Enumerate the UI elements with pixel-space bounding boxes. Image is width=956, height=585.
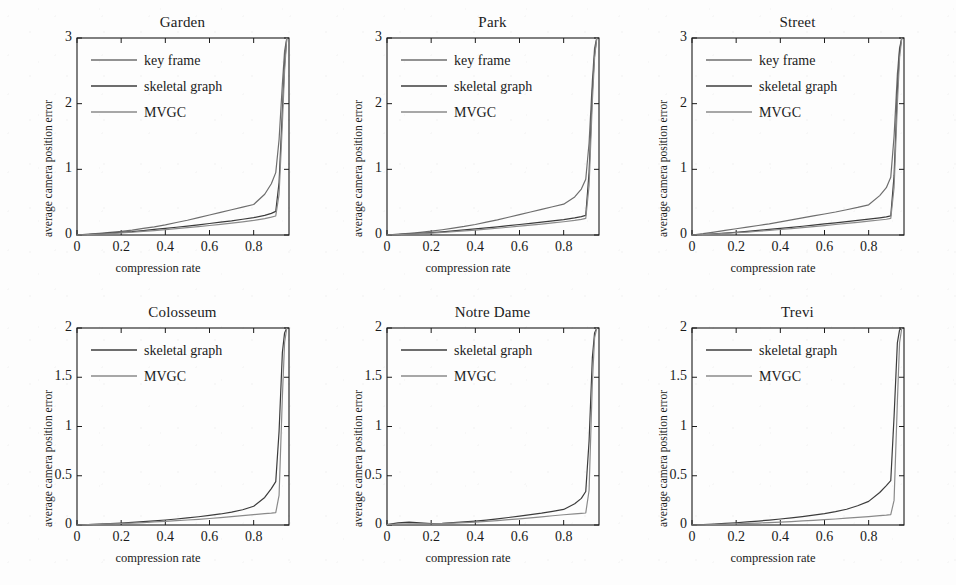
x-tick-label: 0.8 — [544, 239, 584, 255]
legend-label-skeletal-graph: skeletal graph — [759, 79, 837, 94]
x-tick-label: 0 — [57, 529, 97, 545]
chart-panel-colosseum: Colosseumaverage camera position errorco… — [30, 298, 335, 583]
chart-panel-garden: Gardenaverage camera position errorcompr… — [30, 8, 335, 293]
x-tick-label: 0.2 — [101, 239, 141, 255]
x-tick-label: 0.4 — [145, 239, 185, 255]
y-tick-label: 0.5 — [348, 467, 382, 483]
x-tick-label: 0.2 — [101, 529, 141, 545]
y-tick-label: 1 — [348, 160, 382, 176]
y-tick-label: 3 — [348, 29, 382, 45]
x-tick-label: 0.4 — [760, 529, 800, 545]
y-tick-label: 2 — [38, 319, 72, 335]
x-tick-label: 0.6 — [500, 529, 540, 545]
y-tick-label: 2 — [348, 95, 382, 111]
y-tick-label: 2 — [653, 319, 687, 335]
x-tick-label: 0 — [672, 529, 712, 545]
legend-label-skeletal-graph: skeletal graph — [144, 79, 222, 94]
legend-label-mvgc: MVGC — [759, 369, 801, 384]
x-tick-label: 0.8 — [234, 529, 274, 545]
y-tick-label: 1 — [653, 160, 687, 176]
x-tick-label: 0 — [367, 239, 407, 255]
y-tick-label: 1.5 — [348, 368, 382, 384]
legend-label-skeletal-graph: skeletal graph — [454, 343, 532, 358]
y-tick-label: 1 — [348, 418, 382, 434]
x-tick-label: 0.2 — [411, 529, 451, 545]
y-tick-label: 0.5 — [38, 467, 72, 483]
x-tick-label: 0.4 — [455, 239, 495, 255]
x-tick-label: 0 — [672, 239, 712, 255]
x-tick-label: 0.6 — [190, 239, 230, 255]
y-tick-label: 1.5 — [653, 368, 687, 384]
legend-label-skeletal-graph: skeletal graph — [454, 79, 532, 94]
x-tick-label: 0.2 — [411, 239, 451, 255]
legend-label-skeletal-graph: skeletal graph — [144, 343, 222, 358]
y-tick-label: 1 — [38, 160, 72, 176]
legend-label-mvgc: MVGC — [144, 369, 186, 384]
x-tick-label: 0.8 — [234, 239, 274, 255]
x-tick-label: 0.4 — [145, 529, 185, 545]
x-tick-label: 0.2 — [716, 239, 756, 255]
x-tick-label: 0.6 — [805, 239, 845, 255]
y-tick-label: 1.5 — [38, 368, 72, 384]
figure-canvas: Gardenaverage camera position errorcompr… — [0, 0, 956, 585]
legend-label-skeletal-graph: skeletal graph — [759, 343, 837, 358]
y-tick-label: 3 — [653, 29, 687, 45]
x-tick-label: 0.6 — [190, 529, 230, 545]
chart-panel-park: Parkaverage camera position errorcompres… — [340, 8, 645, 293]
chart-panel-street: Streetaverage camera position errorcompr… — [645, 8, 950, 293]
y-tick-label: 2 — [38, 95, 72, 111]
x-tick-label: 0.6 — [500, 239, 540, 255]
x-tick-label: 0.8 — [544, 529, 584, 545]
x-tick-label: 0.8 — [849, 239, 889, 255]
x-tick-label: 0.2 — [716, 529, 756, 545]
y-tick-label: 1 — [653, 418, 687, 434]
chart-panel-trevi: Treviaverage camera position errorcompre… — [645, 298, 950, 583]
legend-label-key-frame: key frame — [759, 53, 815, 68]
chart-panel-notre-dame: Notre Dameaverage camera position errorc… — [340, 298, 645, 583]
legend-label-mvgc: MVGC — [144, 105, 186, 120]
y-tick-label: 3 — [38, 29, 72, 45]
x-tick-label: 0.4 — [760, 239, 800, 255]
legend-label-key-frame: key frame — [454, 53, 510, 68]
y-tick-label: 0.5 — [653, 467, 687, 483]
y-tick-label: 2 — [653, 95, 687, 111]
y-tick-label: 2 — [348, 319, 382, 335]
x-tick-label: 0 — [367, 529, 407, 545]
x-tick-label: 0.4 — [455, 529, 495, 545]
legend-label-mvgc: MVGC — [454, 105, 496, 120]
legend-label-mvgc: MVGC — [759, 105, 801, 120]
legend-label-key-frame: key frame — [144, 53, 200, 68]
y-tick-label: 1 — [38, 418, 72, 434]
x-tick-label: 0.8 — [849, 529, 889, 545]
x-tick-label: 0.6 — [805, 529, 845, 545]
x-tick-label: 0 — [57, 239, 97, 255]
legend-label-mvgc: MVGC — [454, 369, 496, 384]
